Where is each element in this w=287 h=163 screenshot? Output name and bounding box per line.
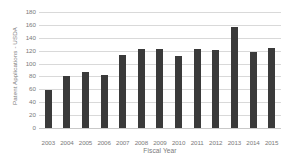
x-tick-label: 2006 xyxy=(97,139,110,146)
x-tick-slot: 2013 xyxy=(225,131,244,141)
bar-slot xyxy=(169,12,188,128)
bar[interactable] xyxy=(250,52,257,128)
x-tick-label: 2012 xyxy=(209,139,222,146)
x-tick-label: 2008 xyxy=(135,139,148,146)
bar[interactable] xyxy=(231,27,238,128)
y-tick-label: 160 xyxy=(18,21,36,29)
x-tick-label: 2005 xyxy=(79,139,92,146)
bar-slot xyxy=(244,12,263,128)
y-tick-label: 20 xyxy=(18,111,36,119)
x-tick-label: 2007 xyxy=(116,139,129,146)
x-tick-label: 2003 xyxy=(42,139,55,146)
bar[interactable] xyxy=(101,75,108,128)
x-tick-slot: 2012 xyxy=(206,131,225,141)
x-tick-label: 2010 xyxy=(172,139,185,146)
y-tick-label: 180 xyxy=(18,8,36,16)
x-tick-slot: 2009 xyxy=(151,131,170,141)
bar[interactable] xyxy=(82,72,89,128)
x-tick-label: 2014 xyxy=(246,139,259,146)
bar[interactable] xyxy=(194,49,201,128)
x-tick-slot: 2006 xyxy=(95,131,114,141)
x-tick-slot: 2014 xyxy=(244,131,263,141)
x-tick-slot: 2005 xyxy=(76,131,95,141)
bar-slot xyxy=(206,12,225,128)
x-tick-slot: 2007 xyxy=(113,131,132,141)
x-tick-slot: 2015 xyxy=(262,131,281,141)
bar-slot xyxy=(225,12,244,128)
bar-slot xyxy=(58,12,77,128)
y-axis-tick-labels: 180160140120100806040200 xyxy=(18,8,36,129)
bar-slot xyxy=(95,12,114,128)
bar[interactable] xyxy=(63,76,70,128)
bar-slot xyxy=(132,12,151,128)
x-tick-slot: 2008 xyxy=(132,131,151,141)
x-tick-label: 2015 xyxy=(265,139,278,146)
x-axis-title: Fiscal Year xyxy=(39,146,281,156)
y-tick-label: 140 xyxy=(18,34,36,42)
x-tick-label: 2004 xyxy=(60,139,73,146)
y-tick-label: 60 xyxy=(18,85,36,93)
bar[interactable] xyxy=(175,56,182,128)
bar[interactable] xyxy=(119,55,126,128)
bar[interactable] xyxy=(138,49,145,128)
bar-slot xyxy=(262,12,281,128)
bar-slot xyxy=(151,12,170,128)
x-axis-tick-labels: 2003200420052006200720082009201020112012… xyxy=(39,131,281,141)
plot-area xyxy=(39,12,281,128)
bar[interactable] xyxy=(268,48,275,128)
axis-baseline xyxy=(39,128,281,129)
x-tick-slot: 2003 xyxy=(39,131,58,141)
bar-slot xyxy=(188,12,207,128)
bar-slot xyxy=(76,12,95,128)
x-tick-label: 2009 xyxy=(153,139,166,146)
bar[interactable] xyxy=(45,90,52,128)
bar[interactable] xyxy=(156,49,163,128)
x-tick-label: 2011 xyxy=(191,139,204,146)
bar-slot xyxy=(39,12,58,128)
x-tick-label: 2013 xyxy=(228,139,241,146)
y-tick-label: 100 xyxy=(18,60,36,68)
y-tick-label: 80 xyxy=(18,72,36,80)
y-tick-label: 120 xyxy=(18,47,36,55)
x-tick-slot: 2004 xyxy=(58,131,77,141)
bar[interactable] xyxy=(212,50,219,128)
y-tick-label: 40 xyxy=(18,98,36,106)
bar-chart-figure: Patent Applications - USDA 1801601401201… xyxy=(0,0,287,163)
bars-layer xyxy=(39,12,281,128)
bar-slot xyxy=(113,12,132,128)
x-tick-slot: 2010 xyxy=(169,131,188,141)
x-tick-slot: 2011 xyxy=(188,131,207,141)
y-tick-label: 0 xyxy=(18,124,36,132)
